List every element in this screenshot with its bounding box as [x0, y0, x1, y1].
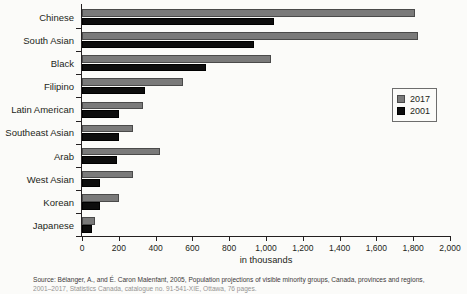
legend-item-2001: 2001 [397, 105, 430, 117]
bar-2017 [82, 9, 415, 17]
bar-2001 [82, 202, 100, 210]
x-axis-tick [340, 237, 341, 241]
y-axis-label: Japanese [0, 214, 78, 237]
x-axis-tick [82, 237, 83, 241]
bar-2017 [82, 102, 143, 110]
bar-2017 [82, 55, 271, 63]
bar-2017 [82, 194, 119, 202]
x-axis-tick [413, 237, 414, 241]
x-axis-tick [303, 237, 304, 241]
bar-2017 [82, 32, 418, 40]
y-axis-tick [76, 74, 81, 75]
y-axis-label: Latin American [0, 98, 78, 121]
bar-2001 [82, 18, 274, 26]
bar-2001 [82, 87, 145, 95]
bar-group [82, 121, 450, 144]
x-axis-tick [229, 237, 230, 241]
y-axis-tick [76, 28, 81, 29]
legend-swatch-2017 [397, 95, 405, 103]
bar-2017 [82, 148, 160, 156]
x-axis-tick-label: 1,000 [255, 243, 276, 253]
legend-swatch-2001 [397, 107, 405, 115]
x-axis-tick [119, 237, 120, 241]
y-axis-tick [76, 236, 81, 237]
x-axis-tick-label: 0 [80, 243, 85, 253]
x-axis-tick-label: 400 [149, 243, 163, 253]
bar-2001 [82, 225, 92, 233]
legend-item-2017: 2017 [397, 93, 430, 105]
bar-2001 [82, 110, 119, 118]
bar-group [82, 6, 450, 29]
y-axis-label: South Asian [0, 29, 78, 52]
x-axis-tick [156, 237, 157, 241]
source-note-line-1: Source: Bélanger, A., and É. Caron Malen… [33, 276, 463, 285]
x-axis-tick-label: 2,000 [439, 243, 460, 253]
y-axis-label: Southeast Asian [0, 121, 78, 144]
y-axis-category-labels: ChineseSouth AsianBlackFilipinoLatin Ame… [0, 6, 78, 237]
x-axis-tick-label: 800 [222, 243, 236, 253]
chart-figure: ChineseSouth AsianBlackFilipinoLatin Ame… [0, 0, 467, 294]
plot-area: ChineseSouth AsianBlackFilipinoLatin Ame… [0, 0, 467, 240]
source-note: Source: Bélanger, A., and É. Caron Malen… [33, 276, 463, 293]
x-axis-tick-label: 600 [185, 243, 199, 253]
x-axis-title: in thousands [82, 255, 450, 265]
bar-group [82, 191, 450, 214]
legend-label-2017: 2017 [410, 94, 430, 104]
y-axis-label: West Asian [0, 168, 78, 191]
y-axis-tick [76, 190, 81, 191]
bar-2001 [82, 41, 254, 49]
bar-group [82, 214, 450, 237]
bar-2001 [82, 64, 206, 72]
x-axis-tick-label: 1,400 [329, 243, 350, 253]
y-axis-tick [76, 121, 81, 122]
y-axis-label: Korean [0, 191, 78, 214]
bar-2017 [82, 217, 95, 225]
x-axis-tick [192, 237, 193, 241]
x-axis-tick [376, 237, 377, 241]
bar-group [82, 145, 450, 168]
y-axis-line [81, 4, 82, 237]
bar-2001 [82, 133, 119, 141]
bar-group [82, 29, 450, 52]
y-axis-tick [76, 144, 81, 145]
y-axis-tick [76, 167, 81, 168]
bar-2017 [82, 171, 133, 179]
x-axis-tick-label: 1,200 [292, 243, 313, 253]
source-note-line-2: 2001–2017, Statistics Canada, catalogue … [33, 285, 463, 294]
x-axis-tick-label: 1,800 [403, 243, 424, 253]
y-axis-label: Black [0, 52, 78, 75]
y-axis-tick [76, 213, 81, 214]
y-axis-tick [76, 97, 81, 98]
chart-legend: 2017 2001 [392, 88, 437, 122]
bar-group [82, 168, 450, 191]
x-axis-tick [450, 237, 451, 241]
x-axis-tick [266, 237, 267, 241]
y-axis-label: Filipino [0, 75, 78, 98]
bar-2017 [82, 78, 183, 86]
y-axis-tick [76, 51, 81, 52]
legend-label-2001: 2001 [410, 106, 430, 116]
bar-2001 [82, 179, 100, 187]
x-axis-tick-label: 200 [112, 243, 126, 253]
bar-2017 [82, 125, 133, 133]
bar-group [82, 52, 450, 75]
y-axis-label: Arab [0, 145, 78, 168]
x-axis-tick-label: 1,600 [366, 243, 387, 253]
y-axis-label: Chinese [0, 6, 78, 29]
bar-2001 [82, 156, 117, 164]
